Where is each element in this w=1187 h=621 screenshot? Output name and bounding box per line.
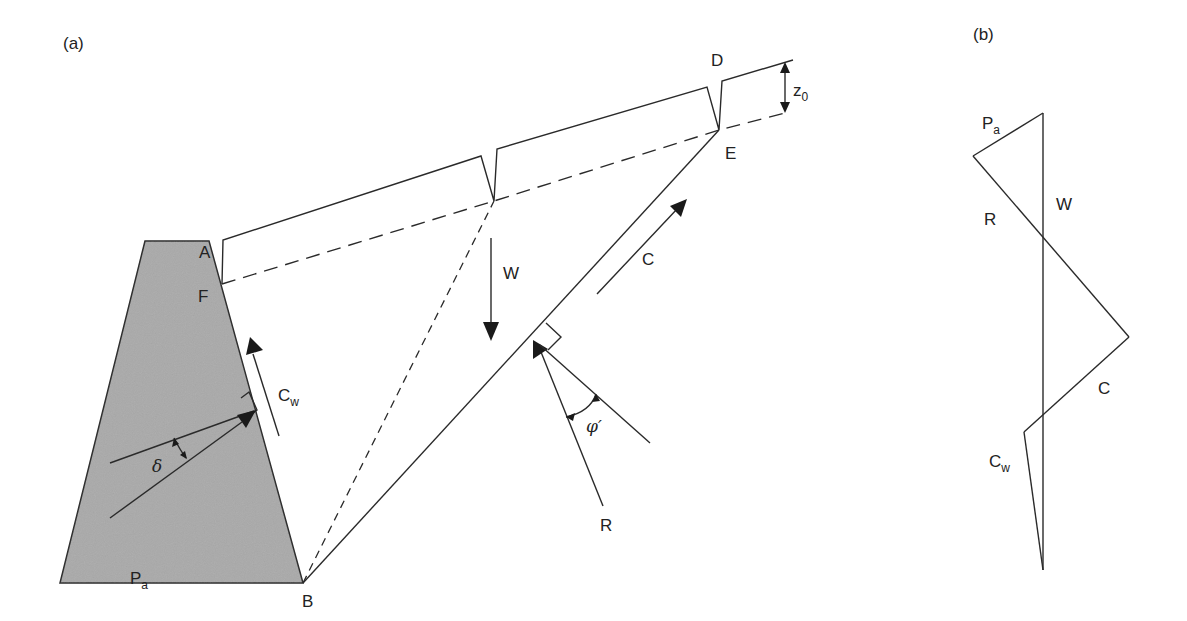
polygon-C-label: C (1098, 379, 1110, 398)
panel-b-force-polygon: (b) Pa W R C Cw (973, 25, 1129, 570)
panel-b-label: (b) (973, 25, 994, 44)
weight-label: W (503, 264, 519, 283)
svg-text:Pa: Pa (982, 114, 1000, 137)
point-D-label: D (711, 51, 723, 70)
retaining-wall (60, 241, 303, 583)
point-B-label: B (302, 592, 313, 611)
point-F-label: F (198, 287, 208, 306)
reaction-label: R (600, 516, 612, 535)
svg-text:Cw: Cw (278, 386, 299, 409)
delta-angle-label: δ (152, 456, 162, 476)
z0-label: z (793, 81, 802, 100)
reaction-force-arrow: φ′ R (533, 323, 650, 535)
crack-depth-line (222, 113, 785, 284)
panel-a-label: (a) (63, 34, 84, 53)
trial-slip-line (303, 201, 494, 583)
svg-text:Cw: Cw (989, 452, 1010, 475)
weight-force-arrow: W (483, 238, 519, 341)
polygon-W-label: W (1056, 195, 1072, 214)
phi-angle-label: φ′ (586, 416, 602, 436)
polygon-side-R (973, 156, 1129, 337)
ground-surface (222, 60, 793, 284)
polygon-Pa-label: P (982, 114, 993, 133)
point-E-label: E (725, 144, 736, 163)
polygon-side-Cw (1024, 432, 1043, 570)
point-A-label: A (199, 243, 211, 262)
active-thrust-label: P (130, 569, 141, 588)
svg-text:z0: z0 (793, 81, 809, 104)
panel-a: (a) z0 A F B D E W (60, 34, 809, 611)
retaining-wall-wedge-diagram: (a) z0 A F B D E W (0, 0, 1187, 621)
slip-plane-BE (303, 130, 719, 583)
wall-adhesion-label: C (278, 386, 290, 405)
polygon-side-C (1024, 337, 1129, 432)
cohesion-label: C (642, 250, 654, 269)
z0-dimension-arrow: z0 (780, 62, 809, 113)
polygon-R-label: R (984, 210, 996, 229)
polygon-Cw-label: C (989, 452, 1001, 471)
